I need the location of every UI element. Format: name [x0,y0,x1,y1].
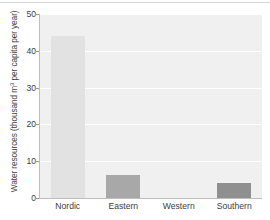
plot-area [40,14,262,198]
y-axis-line [39,14,40,199]
y-tick-label: 10 [0,156,36,166]
figure-top-rule [0,2,270,3]
x-tick-label-nordic: Nordic [55,201,80,211]
y-tick-mark [35,51,39,52]
x-tick-label-southern: Southern [217,201,252,211]
x-axis-line [40,198,262,199]
x-tick-label-western: Western [163,201,195,211]
y-tick-mark [35,14,39,15]
y-tick-label: 50 [0,9,36,19]
y-tick-mark [35,161,39,162]
y-axis-title: Water resources (thousand m3 per capita … [9,3,20,199]
y-axis-title-prefix: Water resources (thousand m [9,86,19,192]
y-tick-mark [35,198,39,199]
y-tick-label: 40 [0,46,36,56]
bar-southern [217,183,251,198]
bar-nordic [51,36,85,198]
y-tick-label: 30 [0,83,36,93]
x-tick-label-eastern: Eastern [108,201,138,211]
bars-layer [40,14,262,198]
y-tick-label: 0 [0,193,36,203]
y-tick-label: 20 [0,119,36,129]
chart-figure: Water resources (thousand m3 per capita … [0,0,270,220]
y-tick-mark [35,124,39,125]
bar-eastern [106,175,140,198]
y-tick-mark [35,88,39,89]
